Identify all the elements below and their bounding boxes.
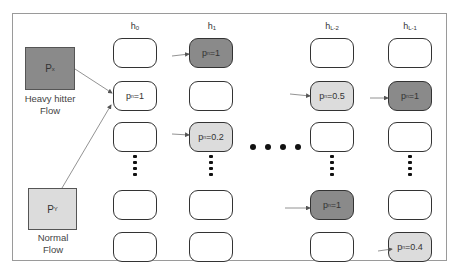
arrows-layer <box>0 0 459 280</box>
arrow-normal-to-h0 <box>62 105 111 188</box>
arrow-heavy-to-h0 <box>75 69 112 93</box>
